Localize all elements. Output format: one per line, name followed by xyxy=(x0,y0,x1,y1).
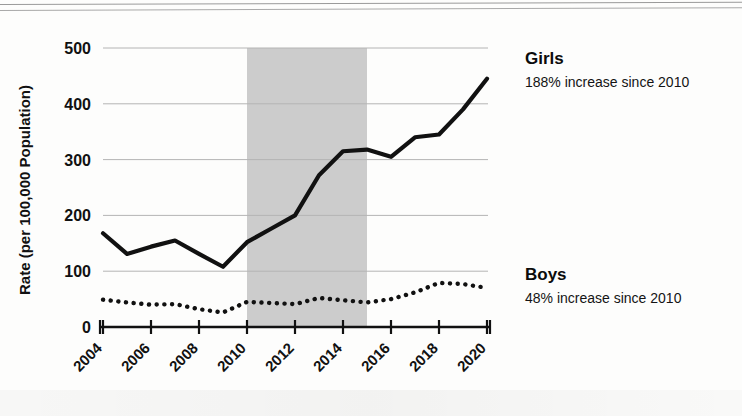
x-tick-label: 2004 xyxy=(70,339,106,375)
y-tick-label: 300 xyxy=(64,152,91,169)
legend-girls-title: Girls xyxy=(525,49,564,68)
legend-girls-note: 188% increase since 2010 xyxy=(525,74,689,90)
y-tick-label: 100 xyxy=(64,263,91,280)
y-tick-label: 200 xyxy=(64,207,91,224)
x-tick-label: 2018 xyxy=(406,339,442,375)
x-tick-labels: 200420062008201020122014201620182020 xyxy=(70,339,490,375)
x-tick-label: 2006 xyxy=(118,339,154,375)
x-tick-label: 2012 xyxy=(262,339,298,375)
highlight-band xyxy=(247,48,367,327)
legend-boys-note: 48% increase since 2010 xyxy=(525,290,682,306)
y-tick-label: 400 xyxy=(64,96,91,113)
y-tick-label: 0 xyxy=(82,319,91,336)
line-chart: 0100200300400500 20042006200820102012201… xyxy=(0,0,742,416)
highlight-band-layer xyxy=(247,48,367,327)
legend-boys-title: Boys xyxy=(525,265,567,284)
x-tick-label: 2008 xyxy=(166,339,202,375)
x-tick-label: 2020 xyxy=(454,339,490,375)
x-tick-label: 2010 xyxy=(214,339,250,375)
y-axis-title: Rate (per 100,000 Population) xyxy=(16,85,33,295)
x-tick-label: 2014 xyxy=(310,339,346,375)
y-tick-label: 500 xyxy=(64,40,91,57)
y-tick-labels: 0100200300400500 xyxy=(64,40,91,336)
chart-figure: 0100200300400500 20042006200820102012201… xyxy=(0,0,742,416)
axis-layer xyxy=(99,320,491,334)
x-tick-label: 2016 xyxy=(358,339,394,375)
